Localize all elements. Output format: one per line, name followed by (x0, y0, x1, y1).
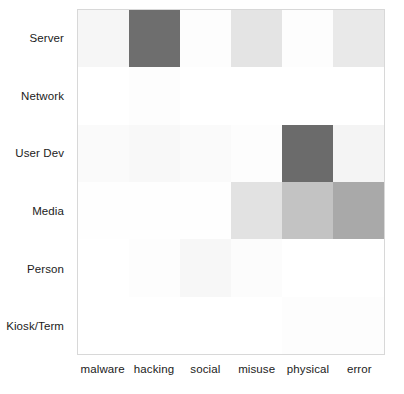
heatmap-cell (180, 239, 231, 296)
x-tick-label-physical: physical (282, 360, 333, 384)
heatmap-cell (180, 182, 231, 239)
heatmap-cell (78, 10, 129, 67)
heatmap-cell (78, 182, 129, 239)
heatmap-cell (282, 125, 333, 182)
heatmap-cell (333, 67, 384, 124)
y-axis: Server Network User Dev Media Person Kio… (0, 9, 70, 355)
heatmap-cell (282, 297, 333, 354)
heatmap-cell (282, 10, 333, 67)
heatmap-cell (231, 10, 282, 67)
heatmap-cell (78, 297, 129, 354)
heatmap-cell (129, 182, 180, 239)
y-tick-label-person: Person (0, 240, 70, 298)
heatmap-cell (333, 239, 384, 296)
heatmap-cell (282, 67, 333, 124)
heatmap-cell (129, 125, 180, 182)
heatmap-cell (129, 297, 180, 354)
heatmap-cell (180, 10, 231, 67)
heatmap-cell (231, 297, 282, 354)
plot-area (77, 9, 385, 355)
x-tick-label-social: social (180, 360, 231, 384)
heatmap-cell (180, 67, 231, 124)
x-axis: malware hacking social misuse physical e… (77, 360, 385, 384)
heatmap-cell (180, 297, 231, 354)
heatmap-cell (78, 67, 129, 124)
heatmap-cell (333, 182, 384, 239)
heatmap-cell (129, 67, 180, 124)
heatmap-cell (282, 239, 333, 296)
heatmap-cell (78, 239, 129, 296)
heatmap-cell (333, 125, 384, 182)
heatmap-cell (129, 10, 180, 67)
x-tick-label-hacking: hacking (128, 360, 179, 384)
x-tick-label-malware: malware (77, 360, 128, 384)
y-tick-label-server: Server (0, 9, 70, 67)
heatmap-cell (333, 297, 384, 354)
heatmap-cell (282, 182, 333, 239)
heatmap-cell (129, 239, 180, 296)
y-tick-label-kiosk-term: Kiosk/Term (0, 297, 70, 355)
heatmap-cell (231, 182, 282, 239)
y-tick-label-media: Media (0, 182, 70, 240)
x-tick-label-misuse: misuse (231, 360, 282, 384)
heatmap-cell (78, 125, 129, 182)
heatmap-cell (231, 239, 282, 296)
heatmap-cell (333, 10, 384, 67)
heatmap-cell (180, 125, 231, 182)
y-tick-label-network: Network (0, 67, 70, 125)
heatmap-cell (231, 67, 282, 124)
x-tick-label-error: error (334, 360, 385, 384)
heatmap-figure: Server Network User Dev Media Person Kio… (0, 0, 404, 394)
heatmap-cell (231, 125, 282, 182)
y-tick-label-user-dev: User Dev (0, 124, 70, 182)
heatmap-grid (78, 10, 384, 354)
